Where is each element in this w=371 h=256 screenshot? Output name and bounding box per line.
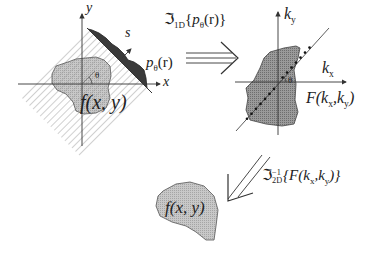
s-axis-label: s: [125, 26, 130, 40]
inverse-fourier-2d-label: ℑ−12D{F(kx,ky)}: [262, 168, 340, 186]
left-panel: [18, 14, 160, 156]
y-axis-label: y: [86, 1, 92, 15]
kx-axis-label: kx: [322, 60, 334, 79]
reconstructed-object-label: f(x, y): [165, 199, 205, 216]
spectrum-label: F(kx,ky): [306, 90, 354, 109]
x-axis-label: x: [163, 75, 169, 89]
right-angle-label: θ: [288, 76, 292, 85]
ky-axis-label: ky: [284, 6, 296, 25]
fourier-1d-arrow: [186, 42, 238, 74]
spectrum-blob: [246, 46, 300, 126]
object-label: f(x, y): [80, 92, 127, 112]
fourier-1d-label: ℑ1D{pθ(r)}: [164, 12, 226, 30]
left-angle-label: θ: [95, 71, 99, 80]
projection-slice-diagram: [0, 0, 371, 256]
projection-label: pθ(r): [146, 55, 173, 73]
